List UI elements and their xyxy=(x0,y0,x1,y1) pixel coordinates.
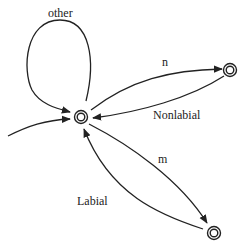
edge-labial xyxy=(84,129,203,229)
label-nonlabial: Nonlabial xyxy=(153,108,201,122)
label-other: other xyxy=(48,6,73,20)
label-labial: Labial xyxy=(77,194,108,208)
node-n-state xyxy=(224,64,237,77)
node-m-state xyxy=(208,227,221,240)
label-m: m xyxy=(158,152,168,166)
edge-entry xyxy=(8,119,70,136)
edge-m xyxy=(89,124,207,223)
fsa-diagram: other n Nonlabial m Labial xyxy=(0,0,246,251)
edge-other-self-loop xyxy=(27,20,90,112)
node-start xyxy=(75,111,88,124)
edge-n xyxy=(91,69,222,110)
label-n: n xyxy=(162,55,168,69)
